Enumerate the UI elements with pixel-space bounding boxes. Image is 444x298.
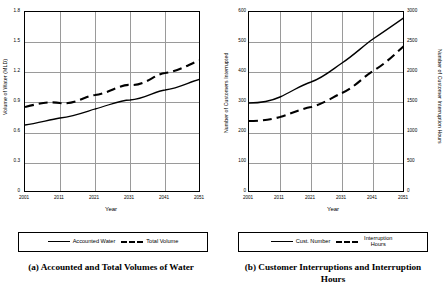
panel-a-line-total-volume [25,60,200,107]
panel-a-xtick-5: 2041 [151,196,177,201]
panel-b-xtick-5: 2041 [359,196,385,201]
panel-b-ytick-r6: 500 [407,159,415,164]
dashed-line-icon [121,241,143,243]
panel-b-xtick-2: 2011 [266,196,292,201]
panel-b-ytick-r3: 2000 [407,69,417,74]
panel-b-legend: Cust. Number Interruption Hours [238,232,428,252]
panel-b-ytick-l1: 600 [230,9,246,14]
panel-b-ytick-r2: 2500 [407,39,417,44]
panel-a-ytick-3: 1.2 [6,69,20,74]
panel-a-legend-entry-accounted-water: Accounted Water [48,239,116,245]
panel-b-line-cust-number [249,17,404,103]
panel-b-ytick-r4: 1500 [407,99,417,104]
panel-a-xtick-6: 2051 [186,196,212,201]
panel-b-ytick-l7: 0 [230,189,246,194]
panel-a-ytick-5: 0.6 [6,129,20,134]
figure-container: Volume of Water (MLD) 1.8 1.5 1.2 0.9 0.… [0,0,444,298]
panel-b-ytick-r7: 0 [407,189,410,194]
panel-a-caption: (a) Accounted and Total Volumes of Water [0,262,222,274]
panel-b-ytick-r5: 1000 [407,129,417,134]
panel-a-ytick-4: 0.9 [6,99,20,104]
panel-b-line-interruption-hours [249,45,404,121]
panel-b-plot-area [248,11,404,192]
panel-a: Volume of Water (MLD) 1.8 1.5 1.2 0.9 0.… [0,0,222,298]
panel-b-xtick-6: 2051 [390,196,416,201]
panel-a-ytick-1: 1.8 [6,9,20,14]
panel-a-legend-entry-total-volume: Total Volume [121,239,178,245]
panel-b-ytick-l2: 500 [230,39,246,44]
solid-line-icon [271,241,293,242]
panel-b-x-axis-title: Year [222,206,444,212]
panel-a-legend: Accounted Water Total Volume [18,232,208,252]
panel-b-legend-label-1: Cust. Number [296,239,331,245]
panel-a-x-axis-title: Year [0,206,222,212]
panel-b-legend-entry-cust-number: Cust. Number [271,239,331,245]
panel-b-ytick-l4: 300 [230,99,246,104]
panel-b-y-axis-left-title: Number of Customers Interrupted [223,20,229,165]
panel-b-y-axis-right-title: Number of Customer Interruption Hours [437,16,443,176]
panel-b-ytick-l3: 400 [230,69,246,74]
panel-a-xtick-1: 2001 [11,196,37,201]
panel-b-xtick-1: 2001 [235,196,261,201]
panel-a-legend-label-1: Accounted Water [73,239,116,245]
panel-a-xtick-2: 2011 [46,196,72,201]
panel-a-xtick-3: 2021 [81,196,107,201]
solid-line-icon [48,241,70,242]
panel-b: Number of Customers Interrupted Number o… [222,0,444,298]
panel-a-ytick-6: 0.3 [6,159,20,164]
panel-b-legend-entry-interruption-hours: Interruption Hours [336,236,395,248]
dashed-line-icon [336,241,358,243]
panel-b-ytick-l6: 100 [230,159,246,164]
panel-b-legend-label-2: Interruption Hours [361,236,395,248]
panel-a-plot-area [24,11,200,192]
panel-b-xtick-4: 2031 [328,196,354,201]
panel-a-y-axis-title: Volume of Water (MLD) [2,32,8,142]
panel-a-ytick-7: 0 [6,189,20,194]
panel-b-ytick-r1: 3000 [407,9,417,14]
panel-a-legend-label-2: Total Volume [146,239,178,245]
panel-a-series-svg [25,12,200,192]
panel-b-caption: (b) Customer Interruptions and Interrupt… [222,262,444,285]
panel-b-series-svg [249,12,404,192]
panel-a-line-accounted-water [25,79,200,125]
panel-a-ytick-2: 1.5 [6,39,20,44]
panel-b-xtick-3: 2021 [297,196,323,201]
panel-a-xtick-4: 2031 [116,196,142,201]
panel-b-ytick-l5: 200 [230,129,246,134]
